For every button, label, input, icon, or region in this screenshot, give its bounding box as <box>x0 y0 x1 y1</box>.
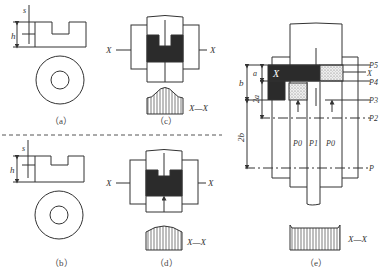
section-mark-right-c: X <box>209 45 216 55</box>
label-p1: P1 <box>308 139 318 148</box>
label-p4: P4 <box>368 78 378 87</box>
outer-circle <box>36 56 84 104</box>
section-profile-c <box>147 88 183 115</box>
caption-d: （d） <box>155 258 178 268</box>
panel-c <box>116 16 207 115</box>
dotted-region-inner <box>289 83 307 100</box>
section-label-c: X—X <box>188 103 209 113</box>
panel-a <box>13 5 86 104</box>
label-x-right: X <box>366 69 373 78</box>
label-p: P <box>368 164 374 173</box>
dim-2b-label: 2b <box>236 133 246 143</box>
engineering-diagram: h s （a） X X X—X （c） h s （b） <box>0 0 382 276</box>
dim-b-label: b <box>239 78 244 88</box>
section-profile-e <box>290 225 340 250</box>
panel-b <box>13 140 84 239</box>
dim-s-label: s <box>23 6 26 15</box>
section-mark-left-d: X <box>105 178 112 188</box>
section-profile-d <box>146 226 182 250</box>
caption-b: （b） <box>50 258 73 268</box>
section-mark-right-d: X <box>207 178 214 188</box>
section-label-d: X—X <box>186 237 207 247</box>
caption-a: （a） <box>50 116 72 126</box>
inner-circle <box>51 71 69 89</box>
section-label-e: X—X <box>347 234 368 244</box>
dim-a-label: a <box>253 69 257 78</box>
label-p2: P2 <box>368 114 378 123</box>
label-p0-right: P0 <box>325 139 335 148</box>
part-profile <box>35 22 86 47</box>
section-mark-left-c: X <box>105 45 112 55</box>
label-p0-left: P0 <box>292 139 302 148</box>
dim-h-label-b: h <box>10 165 15 175</box>
caption-c: （c） <box>155 116 177 126</box>
panel-d <box>116 150 206 251</box>
panel-e <box>245 23 370 250</box>
dotted-region-top <box>320 65 343 81</box>
label-p3: P3 <box>368 96 378 105</box>
dim-2a-label: 2a <box>252 95 261 103</box>
caption-e: （e） <box>305 258 327 268</box>
dim-s-label-b: s <box>22 144 25 153</box>
dim-h-label: h <box>11 31 16 41</box>
block-label-x: X <box>272 68 280 79</box>
